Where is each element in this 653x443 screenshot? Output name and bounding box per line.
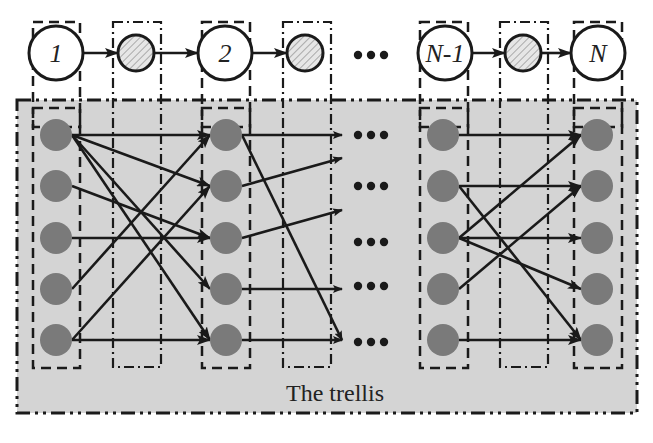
- ellipsis-dot: [354, 338, 362, 346]
- trellis-state-node: [581, 170, 613, 202]
- ellipsis-dot: [367, 182, 375, 190]
- ellipsis-dot: [354, 238, 362, 246]
- trellis-diagram: 12N-1N The trellis: [0, 0, 653, 443]
- trellis-state-node: [210, 324, 242, 356]
- observed-node-label: 2: [219, 39, 232, 68]
- chain-row: 12N-1N: [29, 26, 625, 80]
- trellis-state-node: [581, 222, 613, 254]
- trellis-state-node: [427, 324, 459, 356]
- trellis-state-node: [40, 170, 72, 202]
- ellipsis-dot: [354, 51, 362, 59]
- ellipsis-dot: [367, 51, 375, 59]
- ellipsis-dot: [367, 282, 375, 290]
- trellis-state-node: [210, 119, 242, 151]
- ellipsis-dot: [367, 131, 375, 139]
- ellipsis-dot: [367, 338, 375, 346]
- trellis-state-node: [581, 119, 613, 151]
- trellis-state-node: [40, 273, 72, 305]
- ellipsis-dot: [380, 282, 388, 290]
- trellis-state-node: [427, 273, 459, 305]
- ellipsis-dot: [354, 282, 362, 290]
- ellipsis-dot: [380, 238, 388, 246]
- ellipsis-dot: [354, 131, 362, 139]
- trellis-state-node: [40, 119, 72, 151]
- trellis-state-node: [427, 170, 459, 202]
- trellis-state-node: [427, 222, 459, 254]
- ellipsis-dot: [380, 131, 388, 139]
- hatched-hidden-node: [118, 35, 154, 71]
- trellis-state-node: [210, 273, 242, 305]
- observed-node-label: N: [588, 39, 608, 68]
- trellis-state-node: [210, 170, 242, 202]
- observed-node-label: 1: [50, 39, 63, 68]
- trellis-state-node: [581, 324, 613, 356]
- ellipsis-dot: [380, 51, 388, 59]
- trellis-state-node: [581, 273, 613, 305]
- trellis-state-node: [210, 222, 242, 254]
- trellis-state-node: [40, 222, 72, 254]
- trellis-label: The trellis: [286, 380, 384, 406]
- ellipsis-dot: [367, 238, 375, 246]
- hatched-hidden-node: [505, 35, 541, 71]
- ellipsis-dot: [380, 338, 388, 346]
- observed-node-label: N-1: [425, 39, 465, 68]
- ellipsis-dot: [380, 182, 388, 190]
- ellipsis-dot: [354, 182, 362, 190]
- hatched-hidden-node: [287, 35, 323, 71]
- trellis-frame: [17, 100, 637, 413]
- trellis-state-node: [40, 324, 72, 356]
- trellis-state-node: [427, 119, 459, 151]
